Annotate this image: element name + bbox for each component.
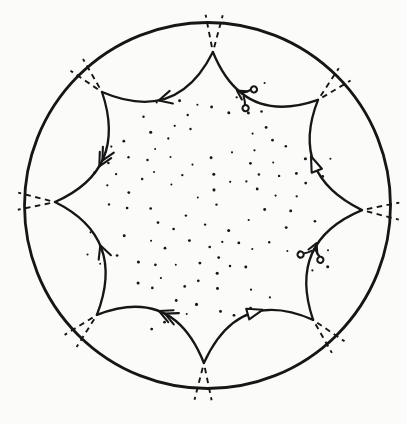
- stipple-dot: [256, 188, 259, 191]
- stipple-dot: [188, 239, 191, 242]
- stipple-dot: [247, 112, 250, 115]
- stipple-dot: [252, 133, 254, 135]
- stipple-dot: [86, 253, 88, 255]
- stipple-dot: [163, 321, 166, 324]
- triangle-marker-icon: [246, 309, 262, 320]
- stipple-dot: [263, 208, 266, 211]
- stipple-dot: [326, 265, 329, 268]
- stipple-dot: [116, 254, 119, 257]
- stipple-dot: [304, 157, 307, 160]
- octagon-edges: [55, 52, 362, 363]
- stipple-dot: [127, 156, 129, 158]
- stipple-dot: [186, 313, 188, 315]
- stipple-dot: [229, 265, 232, 268]
- stipple-dot: [167, 137, 169, 139]
- stipple-dot: [285, 226, 288, 229]
- octagon-edge-4: [97, 307, 204, 363]
- stipple-dot: [244, 266, 247, 269]
- stipple-dot: [170, 183, 172, 185]
- vertex-dash-2: [367, 203, 399, 210]
- stipple-dot: [227, 111, 230, 114]
- stipple-dot: [215, 203, 217, 205]
- stipple-dot: [170, 156, 172, 158]
- vertex-dash-1: [321, 68, 339, 96]
- stipple-dot: [149, 131, 152, 134]
- vertex-dash-6: [18, 203, 50, 210]
- stipple-dot: [137, 261, 140, 264]
- stipple-dot: [233, 314, 236, 317]
- stipple-dot: [122, 140, 125, 143]
- stipple-dot: [195, 303, 198, 306]
- stipple-dot: [236, 96, 238, 98]
- stipple-dot: [208, 246, 211, 249]
- stipple-dot: [110, 145, 112, 147]
- stipple-dot: [154, 148, 156, 150]
- poincare-disk-octagon-diagram: [0, 0, 407, 424]
- stipple-dot: [286, 250, 288, 252]
- stipple-dot: [278, 175, 280, 177]
- octagon-edge-6: [55, 92, 109, 202]
- stipple-dot: [123, 234, 126, 237]
- stipple-dot: [248, 219, 250, 221]
- stipple-dot: [187, 114, 189, 116]
- stipple-dot: [250, 289, 252, 291]
- stipple-dot: [329, 158, 331, 160]
- stipple-dot: [271, 139, 274, 142]
- stipple-dot: [258, 173, 260, 175]
- stipple-dot: [151, 287, 154, 290]
- stipple-dot: [196, 104, 198, 106]
- stipple-dot: [264, 82, 266, 84]
- stipple-dot: [137, 281, 140, 284]
- octagon-edge-1: [310, 100, 362, 210]
- stipple-dot: [204, 223, 206, 225]
- stipple-dot: [296, 195, 298, 197]
- octagon-edge-7: [102, 52, 213, 102]
- stipple-dot: [198, 262, 201, 265]
- stipple-dot: [191, 164, 193, 166]
- stipple-dot: [289, 209, 292, 212]
- stipple-dots: [86, 82, 331, 331]
- stipple-dot: [219, 310, 222, 313]
- stipple-dot: [327, 249, 329, 251]
- stipple-dot: [106, 184, 108, 186]
- stipple-dot: [229, 181, 231, 183]
- stipple-dot: [150, 240, 152, 242]
- stipple-dot: [149, 207, 152, 210]
- stipple-dot: [253, 149, 255, 151]
- stipple-dot: [265, 126, 268, 129]
- stipple-dot: [153, 171, 155, 173]
- stipple-dot: [231, 151, 233, 153]
- stipple-dot: [227, 229, 230, 232]
- stipple-dot: [172, 228, 175, 231]
- stipple-dot: [154, 263, 157, 266]
- stipple-dot: [216, 272, 219, 275]
- stipple-dot: [189, 128, 191, 130]
- stipple-dot: [216, 287, 219, 290]
- stipple-dot: [146, 159, 149, 162]
- stipple-dot: [210, 106, 213, 109]
- scanned-figure-page: [0, 0, 407, 424]
- stipple-dot: [181, 174, 183, 176]
- stipple-dot: [142, 116, 144, 118]
- vertex-dash-0: [214, 15, 223, 47]
- stipple-dot: [174, 125, 176, 127]
- stipple-dot: [295, 172, 298, 175]
- stipple-dot: [237, 241, 240, 244]
- stipple-dot: [269, 296, 271, 298]
- vertex-dash-2: [367, 211, 399, 219]
- stipple-dot: [197, 197, 199, 199]
- vertex-dash-0: [206, 15, 212, 47]
- stipple-dot: [141, 178, 144, 181]
- stipple-dot: [175, 264, 177, 266]
- vertex-geodesic-dashes: [18, 15, 400, 401]
- stipple-dot: [314, 220, 317, 223]
- stipple-dot: [183, 285, 186, 288]
- stipple-dot: [115, 173, 117, 175]
- stipple-dot: [107, 162, 110, 165]
- stipple-dot: [268, 241, 270, 243]
- stipple-dot: [217, 256, 220, 259]
- stipple-dot: [185, 214, 187, 216]
- stipple-dot: [164, 247, 167, 250]
- triangle-marker-icon: [311, 156, 322, 172]
- octagon-edge-0: [213, 52, 318, 107]
